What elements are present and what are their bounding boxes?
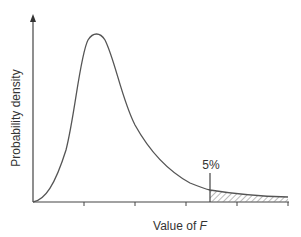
y-axis-arrow-icon (30, 14, 36, 22)
tail-percent-label: 5% (202, 158, 220, 172)
x-axis-label: Value of F (153, 219, 207, 233)
y-axis-label: Probability density (9, 69, 23, 166)
f-distribution-chart: 5% Value of F Probability density (0, 0, 301, 237)
x-ticks (84, 202, 288, 206)
density-curve (33, 34, 288, 202)
